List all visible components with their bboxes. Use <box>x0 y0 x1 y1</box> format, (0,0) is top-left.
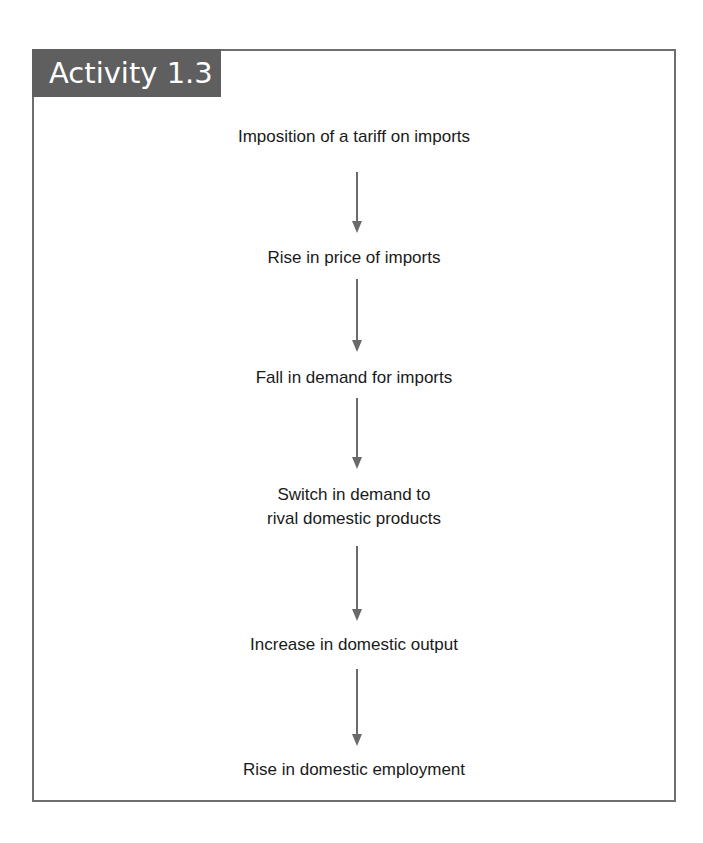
activity-title: Activity 1.3 <box>32 49 221 97</box>
flow-step-employment-rise: Rise in domestic employment <box>32 758 676 782</box>
flow-step-switch-line2: rival domestic products <box>32 507 676 531</box>
flow-step-price-rise: Rise in price of imports <box>32 246 676 270</box>
flow-step-demand-fall: Fall in demand for imports <box>32 366 676 390</box>
flow-step-switch-demand: Switch in demand to rival domestic produ… <box>32 483 676 531</box>
flow-step-tariff: Imposition of a tariff on imports <box>32 125 676 149</box>
flow-step-output-increase: Increase in domestic output <box>32 633 676 657</box>
flow-step-switch-line1: Switch in demand to <box>32 483 676 507</box>
activity-frame <box>32 49 676 802</box>
